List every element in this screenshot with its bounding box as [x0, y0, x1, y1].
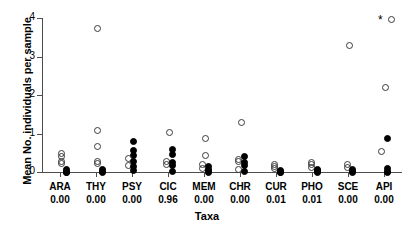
- x-category-pvalue: 0.00: [356, 193, 412, 206]
- data-point: [277, 169, 284, 176]
- x-tick-mark: [96, 173, 97, 177]
- y-axis-title: Mean No. individuals per sample: [21, 16, 33, 186]
- data-point: [238, 119, 245, 126]
- y-tick-label: 3: [22, 50, 35, 61]
- y-tick-label: 0: [22, 165, 35, 176]
- y-tick-mark: [37, 57, 42, 58]
- data-point: [166, 129, 173, 136]
- data-point: [94, 127, 101, 134]
- data-point: [202, 135, 209, 142]
- data-point: [314, 169, 321, 176]
- data-point: [202, 152, 209, 159]
- data-point: [169, 151, 176, 158]
- x-category-api: API0.00: [356, 180, 412, 206]
- scatter-chart-figure: Mean No. individuals per sample 01234 * …: [0, 0, 414, 229]
- data-point: [63, 169, 70, 176]
- data-point: [349, 169, 356, 176]
- y-tick-label: 2: [22, 88, 35, 99]
- x-category-name: API: [356, 180, 412, 193]
- y-tick-mark: [37, 95, 42, 96]
- y-tick-label: 1: [22, 127, 35, 138]
- x-tick-mark: [60, 173, 61, 177]
- y-axis-line: [42, 18, 43, 173]
- data-point: [388, 16, 395, 23]
- data-point: [384, 135, 391, 142]
- data-point: [169, 168, 176, 175]
- data-point: [378, 148, 385, 155]
- data-point: [384, 169, 391, 176]
- x-tick-mark: [312, 173, 313, 177]
- data-point: [205, 169, 212, 176]
- data-point: [94, 25, 101, 32]
- data-point: [130, 138, 137, 145]
- y-tick-mark: [37, 172, 42, 173]
- y-tick-mark: [37, 134, 42, 135]
- y-tick-mark: [37, 18, 42, 19]
- data-point: [130, 167, 137, 174]
- y-tick-label: 4: [22, 11, 35, 22]
- data-point: [382, 84, 389, 91]
- data-point: [241, 168, 248, 175]
- data-point: [99, 169, 106, 176]
- data-point: [346, 42, 353, 49]
- data-point: [94, 143, 101, 150]
- x-axis-title: Taxa: [0, 210, 414, 222]
